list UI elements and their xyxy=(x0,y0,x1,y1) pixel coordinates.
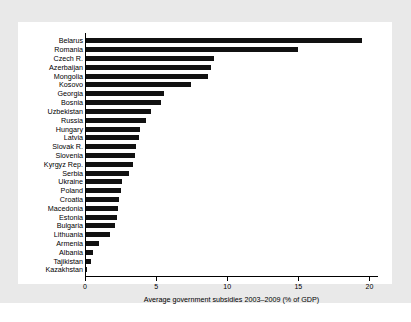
bar-row: Kazakhstan xyxy=(86,267,87,272)
bar-row: Hungary xyxy=(86,127,140,132)
category-label: Latvia xyxy=(64,133,83,142)
bar xyxy=(86,215,117,220)
x-tick-mark xyxy=(85,277,86,281)
bar-row: Estonia xyxy=(86,215,117,220)
category-label: Estonia xyxy=(59,213,83,222)
bar xyxy=(86,118,146,123)
bar-row: Slovak R. xyxy=(86,144,136,149)
category-label: Russia xyxy=(61,116,83,125)
bar-row: Serbia xyxy=(86,171,129,176)
x-tick-label: 0 xyxy=(83,283,87,290)
category-label: Romania xyxy=(54,45,83,54)
x-tick-mark xyxy=(156,277,157,281)
plot-panel: BelarusRomaniaCzech R.AzerbaijanMongolia… xyxy=(18,22,392,284)
bar-row: Poland xyxy=(86,188,121,193)
bar-row: Mongolia xyxy=(86,74,208,79)
bar-row: Czech R. xyxy=(86,56,214,61)
bar xyxy=(86,259,91,264)
bar-row: Bosnia xyxy=(86,100,161,105)
category-label: Czech R. xyxy=(53,54,83,63)
bar xyxy=(86,82,191,87)
category-label: Kyrgyz Rep. xyxy=(44,160,83,169)
bar-row: Kosovo xyxy=(86,82,191,87)
category-label: Slovak R. xyxy=(52,142,83,151)
category-label: Uzbekistan xyxy=(47,107,83,116)
bar-row: Belarus xyxy=(86,38,362,43)
bar xyxy=(86,109,151,114)
bar-row: Croatia xyxy=(86,197,119,202)
x-axis-line xyxy=(85,276,378,277)
bar-row: Georgia xyxy=(86,91,164,96)
bar-row: Ukraine xyxy=(86,179,122,184)
x-tick-mark xyxy=(227,277,228,281)
bar xyxy=(86,162,133,167)
category-label: Mongolia xyxy=(54,72,83,81)
category-label: Slovenia xyxy=(55,151,83,160)
x-tick-label: 5 xyxy=(154,283,158,290)
bar xyxy=(86,135,139,140)
bar xyxy=(86,74,208,79)
bar xyxy=(86,127,140,132)
bar-row: Lithuania xyxy=(86,232,110,237)
plot-area: BelarusRomaniaCzech R.AzerbaijanMongolia… xyxy=(85,33,385,276)
category-label: Tajikistan xyxy=(53,257,83,266)
bar-row: Albania xyxy=(86,250,93,255)
chart-figure: BelarusRomaniaCzech R.AzerbaijanMongolia… xyxy=(0,0,411,322)
category-label: Serbia xyxy=(62,169,83,178)
category-label: Hungary xyxy=(56,125,83,134)
bar xyxy=(86,100,161,105)
bar-row: Russia xyxy=(86,118,146,123)
bar xyxy=(86,223,115,228)
x-tick-label: 20 xyxy=(366,283,374,290)
bar xyxy=(86,232,110,237)
bar-row: Kyrgyz Rep. xyxy=(86,162,133,167)
bar-row: Romania xyxy=(86,47,298,52)
bar-row: Armenia xyxy=(86,241,99,246)
bar xyxy=(86,153,135,158)
x-tick-mark xyxy=(369,277,370,281)
category-label: Lithuania xyxy=(54,230,83,239)
bar xyxy=(86,188,121,193)
category-label: Bosnia xyxy=(61,98,83,107)
x-tick-label: 10 xyxy=(223,283,231,290)
category-label: Ukraine xyxy=(58,177,83,186)
bar xyxy=(86,56,214,61)
bar xyxy=(86,144,136,149)
bar-row: Uzbekistan xyxy=(86,109,151,114)
bar xyxy=(86,179,122,184)
bar xyxy=(86,197,119,202)
bar-row: Tajikistan xyxy=(86,259,91,264)
category-label: Albania xyxy=(59,248,83,257)
bar xyxy=(86,250,93,255)
category-label: Azerbaijan xyxy=(49,63,83,72)
category-label: Macedonia xyxy=(48,204,83,213)
bar xyxy=(86,171,129,176)
x-axis-label: Average government subsidies 2003–2009 (… xyxy=(85,295,378,304)
bar-row: Latvia xyxy=(86,135,139,140)
category-label: Belarus xyxy=(59,36,83,45)
bar-row: Slovenia xyxy=(86,153,135,158)
bar-row: Bulgaria xyxy=(86,223,115,228)
category-label: Kosovo xyxy=(59,80,83,89)
category-label: Poland xyxy=(61,186,83,195)
bar-row: Macedonia xyxy=(86,206,118,211)
bar-row: Azerbaijan xyxy=(86,65,211,70)
category-label: Kazakhstan xyxy=(45,265,83,274)
bar xyxy=(86,267,87,272)
category-label: Croatia xyxy=(60,195,83,204)
x-tick-label: 15 xyxy=(294,283,302,290)
x-tick-mark xyxy=(298,277,299,281)
bar xyxy=(86,91,164,96)
bar xyxy=(86,38,362,43)
bar xyxy=(86,241,99,246)
bar xyxy=(86,206,118,211)
bar xyxy=(86,47,298,52)
category-label: Georgia xyxy=(57,89,83,98)
bar xyxy=(86,65,211,70)
category-label: Bulgaria xyxy=(57,221,83,230)
category-label: Armenia xyxy=(56,239,83,248)
